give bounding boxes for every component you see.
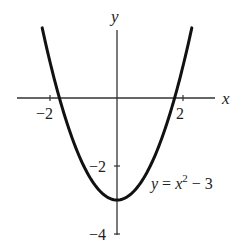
y-tick-label-neg2: −2 (89, 158, 106, 175)
y-tick-label-neg4: −4 (89, 226, 106, 243)
y-axis-label: y (109, 7, 119, 26)
eq-rest: − 3 (188, 175, 213, 192)
function-graph: x y −2 2 −2 −4 y = x2 − 3 (0, 0, 246, 250)
eq-x: x (174, 175, 182, 192)
x-axis-label: x (221, 89, 230, 108)
eq-equals: = (158, 175, 175, 192)
equation-label: y = x2 − 3 (149, 172, 213, 193)
x-tick-label-2: 2 (176, 105, 184, 122)
x-tick-label-neg2: −2 (36, 105, 53, 122)
